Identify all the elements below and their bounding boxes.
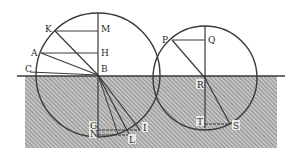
label-M: M — [101, 24, 110, 34]
label-P: P — [162, 35, 168, 45]
refraction-diagram: K M A H C B G N I L P Q R T S — [0, 0, 300, 166]
label-K: K — [45, 24, 52, 34]
label-C: C — [25, 64, 32, 74]
label-L: L — [129, 135, 135, 145]
label-H: H — [101, 48, 109, 58]
label-N: N — [90, 129, 98, 139]
label-I: I — [143, 123, 147, 133]
label-A: A — [30, 48, 38, 58]
label-B: B — [101, 64, 108, 74]
label-S: S — [233, 121, 239, 131]
water-region — [25, 76, 277, 148]
ray-AB — [41, 53, 98, 75]
label-Q: Q — [208, 35, 215, 45]
ray-CB — [30, 72, 98, 75]
label-R: R — [197, 80, 204, 90]
label-T: T — [197, 117, 203, 127]
ray-PR — [172, 40, 205, 78]
